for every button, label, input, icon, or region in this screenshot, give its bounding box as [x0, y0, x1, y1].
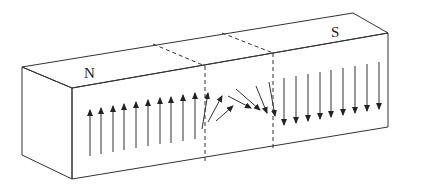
south-pole-label: S	[331, 24, 339, 40]
north-pole-label: N	[84, 65, 95, 81]
down-arrows-right-domain	[284, 62, 379, 125]
bar-magnet-diagram: N S	[0, 0, 421, 193]
up-arrows-left-domain	[90, 93, 195, 156]
rotating-arrows-domain-wall	[202, 82, 275, 129]
